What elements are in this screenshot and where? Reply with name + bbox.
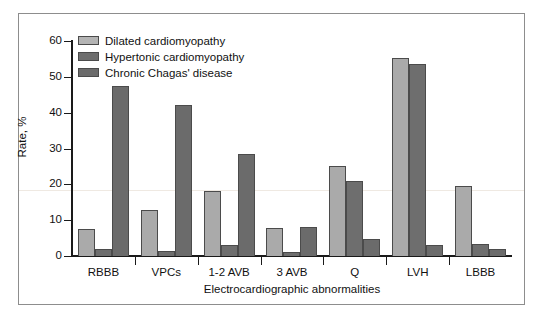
- bar: [455, 186, 472, 256]
- bar: [112, 86, 129, 256]
- y-tick-10: [64, 220, 72, 221]
- legend-swatch-icon: [78, 68, 99, 77]
- y-tick-50: [64, 77, 72, 78]
- bar-group: [261, 41, 324, 256]
- x-tick: [135, 257, 136, 265]
- x-tick: [323, 257, 324, 265]
- bar: [204, 191, 221, 256]
- bar: [78, 229, 95, 256]
- bar: [141, 210, 158, 256]
- x-axis-title: Electrocardiographic abnormalities: [72, 283, 512, 295]
- chart-legend: Dilated cardiomyopathyHypertonic cardiom…: [78, 33, 244, 81]
- bar: [175, 105, 192, 256]
- legend-label: Dilated cardiomyopathy: [105, 35, 225, 47]
- y-tick-label: 10: [18, 214, 62, 226]
- y-tick-40: [64, 113, 72, 114]
- x-tick-label: RBBB: [72, 266, 135, 278]
- x-tick: [198, 257, 199, 265]
- bar: [363, 239, 380, 256]
- y-tick-label: 60: [18, 35, 62, 47]
- bar: [329, 166, 346, 256]
- bar: [409, 64, 426, 256]
- x-tick-label: VPCs: [135, 266, 198, 278]
- y-tick-60: [64, 41, 72, 42]
- bar: [238, 154, 255, 256]
- x-tick-label: LBBB: [449, 266, 512, 278]
- y-tick-label: 0: [18, 250, 62, 262]
- bar-group: [449, 41, 512, 256]
- bar-group: [386, 41, 449, 256]
- x-tick-label: LVH: [386, 266, 449, 278]
- bar: [489, 249, 506, 256]
- y-tick-0: [64, 256, 72, 257]
- x-tick: [261, 257, 262, 265]
- x-tick: [386, 257, 387, 265]
- y-axis-title: Rate, %: [16, 97, 28, 177]
- y-tick-label: 20: [18, 178, 62, 190]
- bar: [472, 244, 489, 256]
- bar: [221, 245, 238, 256]
- legend-item: Hypertonic cardiomyopathy: [78, 49, 244, 64]
- x-tick-label: Q: [323, 266, 386, 278]
- bar: [283, 252, 300, 256]
- bar: [392, 58, 409, 256]
- legend-label: Chronic Chagas' disease: [105, 67, 233, 79]
- x-tick-label: 3 AVB: [261, 266, 324, 278]
- legend-swatch-icon: [78, 52, 99, 61]
- y-tick-label: 50: [18, 71, 62, 83]
- y-tick-20: [64, 184, 72, 185]
- legend-swatch-icon: [78, 36, 99, 45]
- bar: [426, 245, 443, 256]
- bar: [346, 181, 363, 256]
- x-tick: [449, 257, 450, 265]
- bar: [300, 227, 317, 256]
- legend-item: Chronic Chagas' disease: [78, 65, 244, 80]
- legend-item: Dilated cardiomyopathy: [78, 33, 244, 48]
- bar: [95, 249, 112, 256]
- chart-figure: 0102030405060 Rate, % RBBBVPCs1-2 AVB3 A…: [0, 0, 543, 320]
- legend-label: Hypertonic cardiomyopathy: [105, 51, 244, 63]
- y-tick-30: [64, 149, 72, 150]
- bar-group: [323, 41, 386, 256]
- bar: [266, 228, 283, 256]
- x-tick-label: 1-2 AVB: [198, 266, 261, 278]
- bar: [158, 251, 175, 256]
